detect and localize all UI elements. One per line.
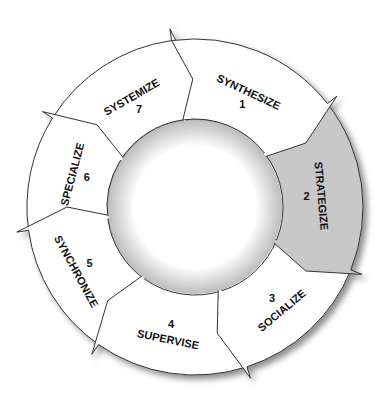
cycle-diagram: SYNTHESIZE1STRATEGIZE2SOCIALIZE3SUPERVIS… <box>0 0 391 412</box>
step-number-4: 4 <box>168 318 175 330</box>
step-number-5: 5 <box>86 257 92 269</box>
step-number-6: 6 <box>84 171 90 183</box>
step-number-2: 2 <box>304 190 310 202</box>
step-number-3: 3 <box>269 292 275 304</box>
cycle-center <box>108 120 282 294</box>
step-number-7: 7 <box>136 103 142 115</box>
step-number-1: 1 <box>239 98 245 110</box>
